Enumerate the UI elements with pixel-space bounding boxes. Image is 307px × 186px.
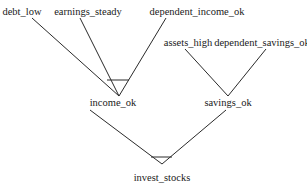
node-earnings-steady: earnings_steady (54, 6, 122, 18)
edge-assets-high-savings-ok (185, 49, 228, 96)
edge-income-ok-invest-stocks (90, 110, 162, 164)
node-dependent-income-ok: dependent_income_ok (149, 6, 244, 18)
edge-debt-low-income-ok (32, 18, 119, 96)
node-dependent-savings-ok: dependent_savings_ok (214, 37, 307, 49)
node-savings-ok: savings_ok (204, 97, 251, 109)
edge-dependent-income-ok-income-ok (119, 18, 166, 96)
node-income-ok: income_ok (90, 97, 137, 109)
edge-savings-ok-invest-stocks (162, 110, 226, 164)
node-assets-high: assets_high (164, 37, 212, 49)
diagram-canvas (0, 0, 307, 186)
node-debt-low: debt_low (2, 6, 41, 18)
edge-earnings-steady-income-ok (80, 18, 119, 96)
node-invest-stocks: invest_stocks (134, 172, 191, 184)
edge-dependent-savings-ok-savings-ok (228, 49, 266, 96)
